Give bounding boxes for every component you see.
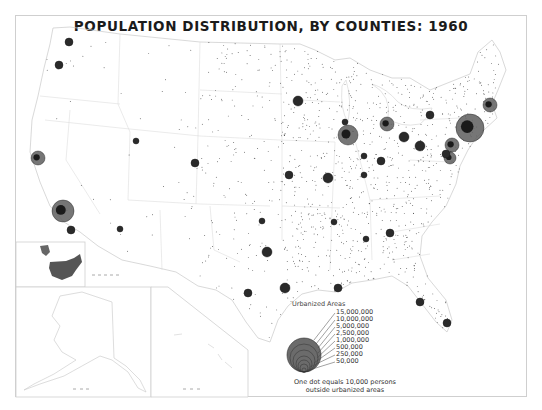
legend-note: One dot equals 10,000 persons outside ur… bbox=[270, 378, 420, 394]
legend-circles bbox=[287, 338, 321, 372]
legend-graphic bbox=[0, 0, 542, 410]
legend-value: 50,000 bbox=[336, 358, 359, 365]
legend-note-line1: One dot equals 10,000 persons bbox=[270, 378, 420, 386]
legend-note-line2: outside urbanized areas bbox=[270, 386, 420, 394]
